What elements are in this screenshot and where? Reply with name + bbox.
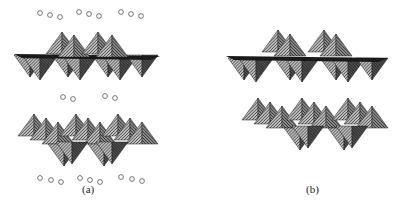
panel-a	[14, 10, 160, 185]
panel-a-label: (a)	[82, 183, 94, 195]
panel-b-label: (b)	[306, 183, 319, 195]
layer-b-top	[226, 30, 388, 82]
layer-b-bottom	[242, 98, 388, 150]
interlayer-circles-middle	[61, 94, 118, 102]
interlayer-circles-top	[38, 10, 144, 20]
panel-b	[226, 30, 388, 150]
layer-a-bottom	[18, 114, 158, 166]
layered-structure-figure	[0, 0, 418, 213]
layer-a-top	[14, 32, 160, 80]
